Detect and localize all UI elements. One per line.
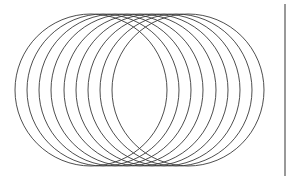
- circle-2: [27, 14, 179, 166]
- circle-1: [15, 14, 167, 166]
- circle-6: [76, 14, 228, 166]
- circle-8: [100, 14, 252, 166]
- circle-7: [88, 14, 240, 166]
- circle-4: [51, 14, 203, 166]
- circle-5: [64, 14, 216, 166]
- overlapping-circles-diagram: [0, 0, 289, 180]
- circle-group: [15, 14, 264, 166]
- circle-3: [39, 14, 191, 166]
- circle-9: [112, 14, 264, 166]
